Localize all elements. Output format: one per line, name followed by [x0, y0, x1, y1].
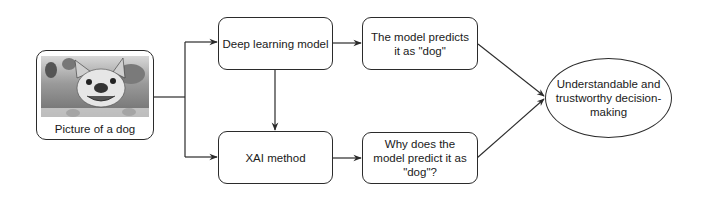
dog-image-icon [41, 56, 149, 117]
node-deep-learning-model: Deep learning model [218, 17, 333, 70]
dog-photo [41, 56, 149, 117]
node-explanation: Why does the model predict it as "dog"? [362, 132, 478, 184]
edge-explanation-to-outcome [477, 99, 544, 158]
node-outcome-label: Understandable and trustworthy decision-… [552, 77, 665, 119]
node-xai-label: XAI method [245, 151, 305, 165]
node-deep-learning-label: Deep learning model [222, 37, 328, 51]
node-outcome: Understandable and trustworthy decision-… [545, 58, 672, 138]
diagram-canvas: Picture of a dog Deep learning model The… [0, 0, 702, 199]
node-prediction: The model predicts it as "dog" [362, 17, 478, 70]
node-prediction-label: The model predicts it as "dog" [367, 30, 473, 58]
node-input-label: Picture of a dog [37, 123, 153, 135]
edge-input-split [153, 42, 185, 157]
node-explanation-label: Why does the model predict it as "dog"? [369, 137, 471, 179]
edge-prediction-to-outcome [478, 44, 544, 96]
node-input-picture: Picture of a dog [36, 50, 154, 140]
node-xai-method: XAI method [218, 131, 333, 184]
